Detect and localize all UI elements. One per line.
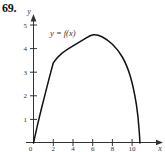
y-axis-arrowhead — [31, 14, 37, 22]
y-tick-label-4: 4 — [24, 45, 28, 53]
y-axis — [31, 14, 37, 143]
y-tick-label-2: 2 — [24, 92, 28, 100]
figure-container: 69. 1 2 3 4 5 — [0, 0, 165, 152]
y-tick-label-1: 1 — [24, 116, 28, 124]
x-tick-label-10: 10 — [129, 145, 137, 152]
x-axis-label: x — [157, 144, 162, 152]
x-axis — [26, 140, 163, 146]
x-tick-label-6: 6 — [91, 145, 95, 152]
function-curve — [34, 35, 140, 143]
y-axis-tick-labels: 1 2 3 4 5 — [24, 22, 28, 124]
x-axis-tick-labels: 0 2 4 6 8 10 — [29, 145, 136, 152]
graph-plot: 1 2 3 4 5 0 2 4 6 8 10 y x y = f( — [0, 0, 165, 152]
y-tick-label-5: 5 — [24, 22, 28, 30]
x-tick-label-2: 2 — [52, 145, 56, 152]
x-tick-label-8: 8 — [111, 145, 115, 152]
x-tick-label-4: 4 — [71, 145, 75, 152]
y-axis-label: y — [26, 7, 31, 16]
curve-label: y = f(x) — [49, 28, 76, 38]
x-tick-label-0: 0 — [29, 145, 33, 152]
y-tick-label-3: 3 — [24, 69, 28, 77]
